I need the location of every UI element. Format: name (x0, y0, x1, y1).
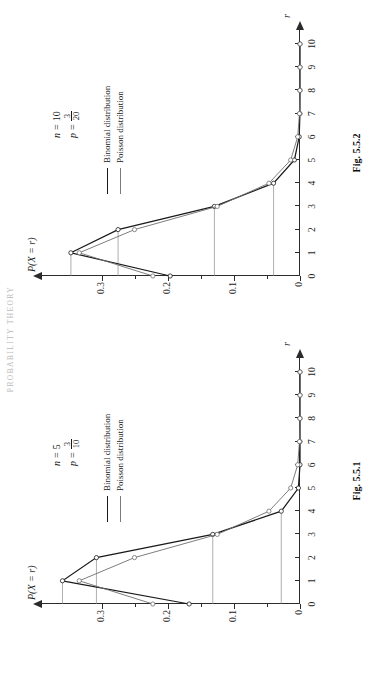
data-point-marker (298, 42, 302, 46)
legend-line-poisson-icon (120, 168, 121, 194)
y-tick (234, 276, 235, 281)
data-point-marker (289, 158, 293, 162)
y-minor-tick (267, 276, 268, 279)
param-p-fraction: 3 10 (63, 439, 82, 450)
param-p-denominator: 20 (71, 111, 81, 122)
data-point-marker (298, 416, 302, 420)
x-axis-arrow-icon (296, 349, 304, 358)
y-minor-tick (135, 604, 136, 607)
data-point-marker (298, 65, 302, 69)
param-p-numerator: 3 (63, 441, 72, 447)
figure-5-5-2: r P(X = r) 012345678910 00.10.20.3 n = 1… (36, 16, 366, 334)
data-point-marker (151, 274, 155, 278)
parameter-annotation-5-5-2: n = 10 p = 3 20 (50, 111, 82, 138)
distribution-curves (42, 358, 300, 604)
y-tick (300, 276, 301, 281)
data-point-marker (116, 228, 120, 232)
data-point-marker (296, 135, 300, 139)
y-minor-tick (201, 604, 202, 607)
data-point-marker (215, 532, 219, 536)
data-point-marker (267, 181, 271, 185)
figure-caption-5-5-2: Fig. 5.5.2 (351, 30, 362, 276)
figure-5-5-1: r P(X = r) 012345678910 00.10.20.3 n = 5… (36, 344, 366, 662)
legend-label-poisson: Poisson distribution (115, 91, 125, 163)
param-n-symbol: n (50, 133, 64, 138)
x-tick-label: 4 (307, 173, 317, 193)
plot-area-5-5-2: r P(X = r) 012345678910 00.10.20.3 (42, 30, 300, 276)
legend-label-poisson: Poisson distribution (115, 419, 125, 491)
x-tick-label: 7 (307, 104, 317, 124)
legend-item-poisson: Poisson distribution (115, 86, 125, 194)
param-n-equals: = (50, 452, 64, 458)
data-point-marker (279, 509, 283, 513)
y-tick-label: 0.2 (162, 610, 172, 636)
data-point-marker (60, 579, 64, 583)
param-p-equals: = (66, 124, 80, 130)
x-tick-label: 8 (307, 80, 317, 100)
param-p-equals: = (66, 452, 80, 458)
y-minor-tick (201, 276, 202, 279)
legend-item-poisson: Poisson distribution (115, 414, 125, 522)
data-point-marker (297, 112, 301, 116)
x-tick-label: 3 (307, 196, 317, 216)
distribution-curves (42, 30, 300, 276)
legend-line-binomial-icon (107, 168, 108, 194)
x-tick-label: 5 (307, 478, 317, 498)
x-tick-label: 0 (307, 266, 317, 286)
data-point-marker (132, 556, 136, 560)
data-point-marker (77, 251, 81, 255)
data-point-marker (69, 251, 73, 255)
legend-label-binomial: Binomial distribution (102, 86, 112, 163)
y-tick-label: 0.1 (228, 610, 238, 636)
legend-line-poisson-icon (120, 496, 121, 522)
data-point-marker (168, 274, 172, 278)
series-line-binomial (62, 372, 300, 604)
data-point-marker (94, 556, 98, 560)
x-tick-label: 10 (307, 362, 317, 382)
data-point-marker (215, 204, 219, 208)
x-tick-label: 5 (307, 150, 317, 170)
x-tick-label: 0 (307, 594, 317, 614)
param-p-symbol: p (66, 133, 80, 138)
y-tick-label: 0.2 (162, 282, 172, 308)
data-point-marker (271, 181, 275, 185)
legend-item-binomial: Binomial distribution (102, 86, 112, 194)
data-point-marker (296, 463, 300, 467)
y-minor-tick (267, 604, 268, 607)
y-axis-label: P(X = r) (26, 237, 37, 272)
param-n-equals: = (50, 124, 64, 130)
data-point-marker (298, 393, 302, 397)
y-tick (102, 604, 103, 609)
data-point-marker (187, 602, 191, 606)
x-axis-label: r (281, 342, 292, 346)
legend-label-binomial: Binomial distribution (102, 414, 112, 491)
data-point-marker (151, 602, 155, 606)
data-point-marker (132, 228, 136, 232)
x-tick-label: 8 (307, 408, 317, 428)
y-tick (102, 276, 103, 281)
y-tick-label: 0 (294, 282, 304, 308)
x-tick-label: 2 (307, 548, 317, 568)
y-tick-label: 0 (294, 610, 304, 636)
legend-5-5-1: Binomial distribution Poisson distributi… (102, 414, 128, 522)
param-p-denominator: 10 (71, 439, 81, 450)
param-p-fraction: 3 20 (63, 111, 82, 122)
running-head: PROBABILITY THEORY (6, 0, 15, 678)
x-axis-arrow-icon (296, 21, 304, 30)
y-tick-label: 0.1 (228, 282, 238, 308)
y-tick (234, 604, 235, 609)
legend-5-5-2: Binomial distribution Poisson distributi… (102, 86, 128, 194)
x-tick-label: 9 (307, 57, 317, 77)
x-tick-label: 1 (307, 571, 317, 591)
x-axis-label: r (281, 14, 292, 18)
param-p: p = 3 20 (64, 111, 83, 138)
data-point-marker (289, 486, 293, 490)
y-tick-label: 0.3 (96, 610, 106, 636)
param-p-numerator: 3 (63, 113, 72, 119)
param-n-symbol: n (50, 461, 64, 466)
figure-caption-5-5-1: Fig. 5.5.1 (351, 358, 362, 604)
parameter-annotation-5-5-1: n = 5 p = 3 10 (50, 439, 82, 466)
x-tick-label: 7 (307, 432, 317, 452)
x-tick-label: 3 (307, 524, 317, 544)
x-tick-label: 10 (307, 34, 317, 54)
